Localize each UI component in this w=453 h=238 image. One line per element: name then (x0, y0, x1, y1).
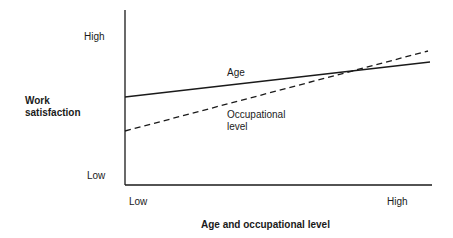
y-tick-low: Low (87, 170, 105, 181)
y-axis-title-line1: Work (25, 95, 50, 106)
age-series-line (125, 62, 430, 97)
y-tick-high: High (84, 31, 105, 42)
x-tick-high: High (387, 196, 408, 207)
x-tick-low: Low (129, 196, 147, 207)
series-label-occupational-line1: Occupational (227, 109, 285, 120)
y-axis-title-line2: satisfaction (25, 107, 81, 118)
series-label-age: Age (227, 67, 245, 78)
x-axis-title: Age and occupational level (201, 219, 330, 230)
series-label-occupational-line2: level (227, 121, 248, 132)
